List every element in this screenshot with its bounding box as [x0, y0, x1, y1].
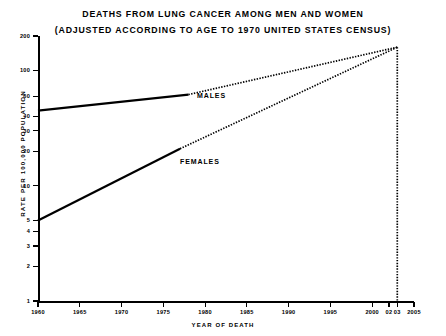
line-males-projected	[188, 47, 397, 94]
chart-figure: DEATHS FROM LUNG CANCER AMONG MEN AND WO…	[0, 0, 446, 336]
plot-lines	[0, 0, 446, 336]
line-males-observed	[38, 95, 188, 111]
series-label-males: MALES	[197, 92, 226, 99]
line-females-observed	[38, 149, 180, 221]
series-label-females: FEMALES	[180, 158, 220, 165]
